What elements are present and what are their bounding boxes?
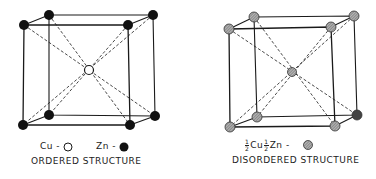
mixed-center-atom xyxy=(288,68,297,77)
cu-legend-open-circle-icon xyxy=(64,143,72,151)
cu-legend-label: Cu - xyxy=(40,141,60,151)
mixed-legend-label: 12Cu12Zn - xyxy=(244,139,290,152)
zn-legend-label: Zn - xyxy=(96,141,116,151)
mixed-legend-hatched-circle-icon xyxy=(304,141,313,150)
ordered-structure-caption: ORDERED STRUCTURE xyxy=(31,156,142,166)
cu-center-atom xyxy=(85,66,94,75)
zn-legend-filled-circle-icon xyxy=(120,143,129,152)
disordered-structure-caption: DISORDERED STRUCTURE xyxy=(232,155,359,165)
bcc-structures-diagram xyxy=(0,0,376,179)
fraction-half: 12 xyxy=(264,139,268,152)
fraction-half: 12 xyxy=(245,139,249,152)
